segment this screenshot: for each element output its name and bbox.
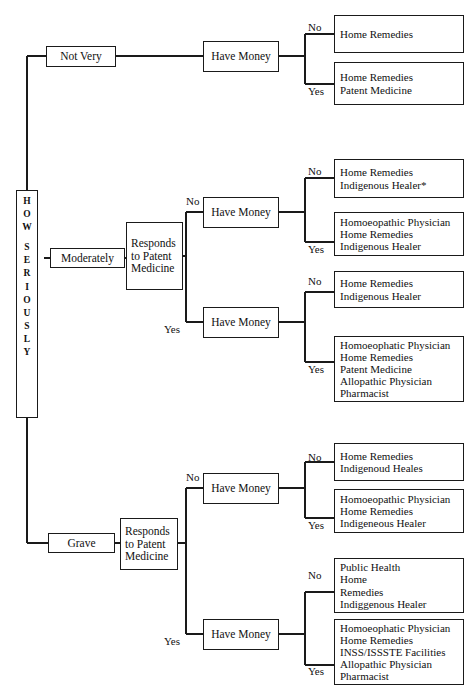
node-moderately[interactable]: Moderately — [50, 248, 125, 268]
edge-label-yes-mod-no: Yes — [308, 244, 324, 255]
node-label: Responds to Patent Medicine — [131, 237, 176, 275]
edge-label-no-grave-yes: No — [308, 570, 321, 581]
node-label: Not Very — [60, 50, 102, 62]
edge-label-yes-mod-yes: Yes — [308, 364, 324, 375]
node-grave[interactable]: Grave — [48, 533, 115, 553]
edge-label-yes-nv: Yes — [308, 86, 324, 97]
node-label: Grave — [67, 537, 95, 549]
edge-label-yes-grave-yes: Yes — [308, 666, 324, 677]
edge-label-yes-mod: Yes — [164, 324, 180, 335]
spine-letter: H — [23, 195, 30, 208]
node-label: Have Money — [211, 316, 271, 328]
outcome-box-mod-yes-yes: Homoeophatic Physician Home Remedies Pat… — [334, 336, 464, 402]
node-have-money-grave-yes[interactable]: Have Money — [203, 619, 279, 650]
spine-letter: O — [23, 208, 30, 221]
outcome-items: Home Remedies Indigenous Healer — [340, 277, 421, 301]
node-have-money-grave-no[interactable]: Have Money — [203, 473, 279, 504]
node-have-money-mod-no[interactable]: Have Money — [203, 197, 279, 228]
outcome-box-grave-no-yes: Homoeopathic Physician Home Remedies Ind… — [334, 489, 464, 533]
outcome-items: Homoeophatic Physician Home Remedies Pat… — [340, 339, 450, 400]
spine-letter: L — [24, 333, 30, 346]
edge-label-no-mod-no: No — [308, 166, 321, 177]
decision-tree-canvas: H O W S E R I O U S L Y Not Very Have Mo… — [0, 0, 475, 686]
edge-label-no-mod-yes: No — [308, 276, 321, 287]
spine-letter: S — [24, 320, 29, 333]
node-label: Moderately — [61, 252, 114, 264]
node-responds-moderately[interactable]: Responds to Patent Medicine — [126, 222, 183, 290]
outcome-box-mod-no-yes: Homoeopathic Physician Home Remedies Ind… — [334, 212, 464, 256]
node-have-money-nv[interactable]: Have Money — [203, 41, 279, 72]
node-not-very[interactable]: Not Very — [46, 46, 116, 67]
spine-letter: U — [24, 307, 31, 320]
edge-label-no-grave-no: No — [308, 452, 321, 463]
outcome-items: Public Health Home Remedies Indiggenous … — [340, 561, 426, 610]
outcome-items: Home Remedies Indigenoud Heales — [340, 450, 423, 474]
outcome-items: Homoeopathic Physician Home Remedies Ind… — [340, 493, 450, 530]
node-label: Responds to Patent Medicine — [125, 525, 170, 563]
outcome-items: Home Remedies Patent Medicine — [340, 71, 413, 95]
outcome-box-nv-no: Home Remedies — [334, 15, 464, 53]
spine-letter: R — [24, 267, 31, 280]
outcome-items: Home Remedies — [340, 28, 413, 40]
how-seriously-spine: H O W S E R I O U S L Y — [16, 190, 38, 418]
outcome-box-grave-yes-yes: Homoeophatic Physician Home Remedies INS… — [334, 619, 464, 685]
node-have-money-mod-yes[interactable]: Have Money — [203, 307, 279, 338]
edge-label-yes-grave: Yes — [164, 636, 180, 647]
node-responds-grave[interactable]: Responds to Patent Medicine — [120, 518, 178, 570]
outcome-items: Homoeophatic Physician Home Remedies INS… — [340, 622, 450, 683]
outcome-items: Homoeopathic Physician Home Remedies Ind… — [340, 216, 450, 253]
outcome-box-mod-no-no: Home Remedies Indigenous Healer* — [334, 159, 464, 198]
edge-label-no-mod: No — [186, 196, 199, 207]
edge-label-yes-grave-no: Yes — [308, 520, 324, 531]
node-label: Have Money — [211, 482, 271, 494]
spine-letter: S — [24, 241, 29, 254]
edge-label-no-grave: No — [186, 472, 199, 483]
outcome-box-grave-yes-no: Public Health Home Remedies Indiggenous … — [334, 558, 464, 613]
outcome-box-grave-no-no: Home Remedies Indigenoud Heales — [334, 443, 464, 481]
node-label: Have Money — [211, 628, 271, 640]
edge-label-no-nv: No — [308, 22, 321, 33]
node-label: Have Money — [211, 206, 271, 218]
spine-letter: W — [22, 221, 32, 234]
outcome-box-mod-yes-no: Home Remedies Indigenous Healer — [334, 271, 464, 308]
spine-letter: E — [24, 254, 30, 267]
node-label: Have Money — [211, 50, 271, 62]
outcome-box-nv-yes: Home Remedies Patent Medicine — [334, 62, 464, 105]
outcome-items: Home Remedies Indigenous Healer* — [340, 166, 426, 190]
spine-letter: O — [23, 294, 30, 307]
spine-letter: I — [25, 281, 29, 294]
spine-letter: Y — [24, 346, 31, 359]
